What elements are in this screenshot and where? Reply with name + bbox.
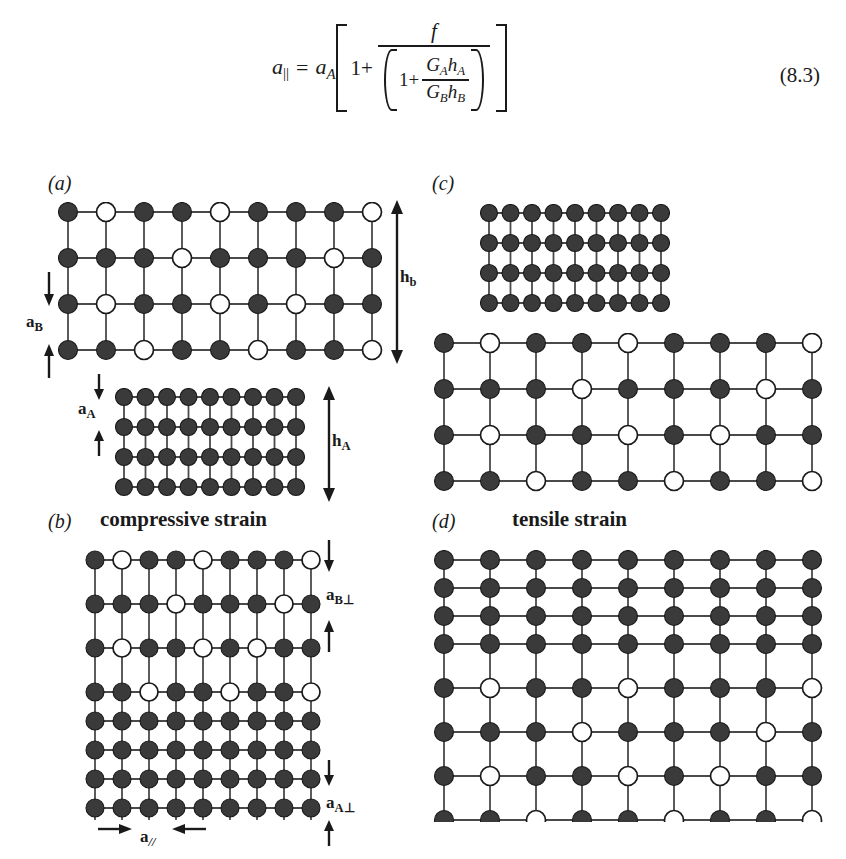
a-parallel-sub: // — [149, 835, 156, 849]
equation-number: (8.3) — [780, 63, 820, 88]
inner-one-plus: 1+ — [399, 69, 419, 91]
h-b-sub: b — [409, 275, 416, 289]
panel-b: (b) compressive strain aB⊥ aA⊥ — [0, 510, 420, 859]
G-B-subscript: B — [440, 90, 448, 105]
panel-a-label-h-b: hb — [400, 268, 416, 288]
panel-b-label-a-parallel: a// — [140, 828, 156, 848]
equation-rhs-prefactor: aA — [315, 54, 335, 83]
panel-b-heading: compressive strain — [100, 507, 267, 532]
lattice-svg-a-alloy — [58, 202, 388, 362]
h-B-symbol: h — [448, 81, 458, 102]
equation-rhs-subscript: A — [326, 65, 335, 81]
a-A-perp-main: a — [326, 793, 335, 812]
panel-d: (d) tensile strain — [420, 510, 846, 859]
panel-c: (c) — [420, 150, 846, 510]
panel-b-letter: (b) — [48, 510, 71, 533]
equation-lhs: a|| — [272, 54, 289, 82]
paren-contents: 1+ GAhA GBhB — [397, 51, 471, 109]
G-A-subscript: A — [440, 63, 448, 78]
equation-one-plus: 1+ — [351, 56, 373, 81]
bracket-left-icon — [336, 24, 347, 112]
panel-b-label-a-B-perp: aB⊥ — [326, 586, 354, 606]
lattice-svg-d-stack — [433, 550, 833, 822]
G-B-symbol: G — [426, 81, 440, 102]
lattice-svg-c-substrate — [480, 204, 670, 316]
a-A-perp-sub: A⊥ — [335, 801, 355, 815]
panel-a-label-a-A: aA — [78, 400, 96, 420]
outer-fraction-denominator: 1+ GAhA GBhB — [378, 47, 490, 117]
bracket-right-icon — [496, 24, 507, 112]
inner-fraction: GAhA GBhB — [422, 54, 469, 106]
a-B-perp-main: a — [326, 585, 335, 604]
h-A-symbol: h — [448, 54, 458, 75]
bracket-contents: 1+ f 1+ GAhA GBhB — [347, 24, 497, 112]
equation-rhs-symbol: a — [315, 54, 326, 79]
panel-a-label-h-A: hA — [332, 432, 351, 452]
inner-fraction-numerator: GAhA — [422, 54, 469, 79]
G-A-symbol: G — [426, 54, 440, 75]
equation-expression: a|| = aA 1+ f 1+ GAhA — [272, 24, 507, 112]
equation-lhs-symbol: a — [272, 54, 283, 79]
lattice-svg-a-substrate — [115, 388, 305, 500]
a-parallel-main: a — [140, 827, 149, 846]
figure-canvas: (a) aB hb — [0, 150, 846, 859]
panel-d-heading: tensile strain — [512, 507, 627, 532]
panel-c-alloy-lattice — [433, 333, 833, 493]
a-B-perp-sub: B⊥ — [335, 593, 354, 607]
equation-block: a|| = aA 1+ f 1+ GAhA — [0, 18, 846, 138]
a-B-sub: B — [35, 320, 43, 334]
panel-d-strained-stack — [433, 550, 833, 822]
equation-bracket-group: 1+ f 1+ GAhA GBhB — [336, 24, 508, 112]
h-A-sub: A — [341, 439, 350, 453]
equation-lhs-subscript: || — [283, 65, 289, 81]
panel-b-strained-stack — [85, 550, 325, 820]
equation-equals: = — [296, 55, 308, 81]
panel-a-label-a-B: aB — [26, 313, 43, 333]
panel-c-letter: (c) — [432, 172, 454, 195]
panel-c-substrate-lattice — [480, 204, 670, 316]
outer-fraction-numerator: f — [421, 19, 447, 45]
h-B-subscript: B — [457, 90, 465, 105]
panel-b-label-a-A-perp: aA⊥ — [326, 794, 355, 814]
panel-a-letter: (a) — [48, 172, 71, 195]
a-A-sub: A — [87, 407, 96, 421]
paren-group: 1+ GAhA GBhB — [384, 49, 484, 111]
paren-left-icon — [384, 49, 397, 111]
h-A-subscript: A — [457, 63, 465, 78]
lattice-svg-b-stack — [85, 550, 325, 820]
outer-fraction: f 1+ GAhA GBhB — [378, 19, 490, 117]
panel-a: (a) aB hb — [0, 150, 420, 510]
lattice-svg-c-alloy — [433, 333, 833, 493]
inner-fraction-denominator: GBhB — [422, 81, 469, 106]
a-A-main: a — [78, 399, 87, 418]
panel-a-substrate-lattice — [115, 388, 305, 500]
paren-right-icon — [471, 49, 484, 111]
a-B-main: a — [26, 312, 35, 331]
panel-a-alloy-lattice — [58, 202, 388, 362]
panel-d-letter: (d) — [432, 510, 455, 533]
